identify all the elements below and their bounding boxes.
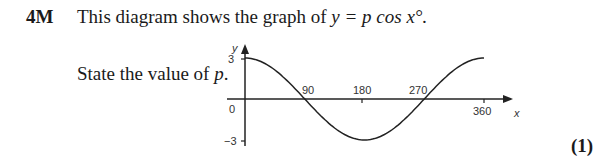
x-tick-360: 360 [473,105,491,117]
x-axis-arrow-icon [503,95,513,103]
origin-label: 0 [229,103,235,115]
y-axis-arrow-icon [241,44,249,54]
x-axis-label: x [513,107,520,119]
x-tick-270: 270 [409,84,427,96]
x-tick-180: 180 [353,84,371,96]
cosine-graph: y 3 0 −3 90 180 270 360 x [0,0,612,156]
y-tick-neg3: −3 [224,135,237,147]
x-tick-90: 90 [302,84,314,96]
y-tick-3: 3 [228,53,234,65]
